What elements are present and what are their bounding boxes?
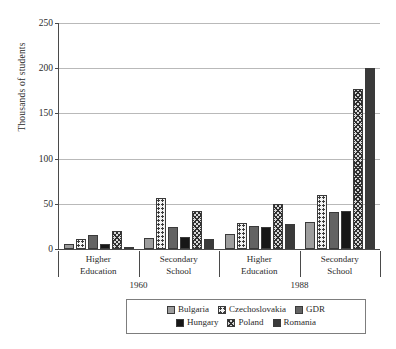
bar-hungary-3 — [341, 211, 351, 249]
bar-bulgaria-3 — [305, 222, 315, 249]
bar-bulgaria-1 — [144, 238, 154, 249]
legend-swatch-czechoslovakia — [218, 306, 226, 314]
y-tick-label: 50 — [44, 199, 54, 209]
y-tick-label: 100 — [39, 154, 53, 164]
x-category-label-3: SecondarySchool — [300, 251, 381, 277]
x-category-label-line: Higher — [58, 254, 139, 266]
bar-czechoslovakia-1 — [156, 198, 166, 249]
legend: BulgariaCzechoslovakiaGDR HungaryPolandR… — [126, 299, 366, 334]
bar-czechoslovakia-0 — [76, 239, 86, 249]
x-era-label-1960: 1960 — [130, 280, 148, 290]
bar-gdr-1 — [168, 227, 178, 249]
bar-bulgaria-0 — [64, 244, 74, 249]
x-era-label-1988: 1988 — [291, 280, 309, 290]
legend-item-hungary[interactable]: Hungary — [176, 316, 219, 329]
x-category-label-line: Education — [58, 266, 139, 278]
bar-romania-2 — [285, 224, 295, 249]
y-tick-label: 200 — [39, 63, 53, 73]
x-category-label-line: School — [300, 266, 381, 278]
legend-row: BulgariaCzechoslovakiaGDR — [131, 303, 361, 316]
legend-item-gdr[interactable]: GDR — [295, 303, 325, 316]
bar-romania-3 — [365, 68, 375, 249]
bar-groups — [59, 23, 380, 249]
bar-group-1 — [139, 23, 219, 249]
x-category-label-line: Education — [219, 266, 300, 278]
y-tick-label: 150 — [39, 108, 53, 118]
x-category-label-2: HigherEducation — [219, 251, 300, 277]
x-separator-0 — [58, 251, 59, 277]
x-separator-1 — [139, 251, 140, 277]
legend-swatch-poland — [227, 319, 235, 327]
x-category-label-line: School — [139, 266, 220, 278]
bar-hungary-1 — [180, 237, 190, 249]
bar-group-3 — [300, 23, 380, 249]
y-tick-label: 250 — [39, 18, 53, 28]
legend-label: Bulgaria — [178, 303, 209, 316]
legend-swatch-hungary — [176, 319, 184, 327]
x-separator-4 — [380, 251, 381, 277]
bar-gdr-0 — [88, 235, 98, 249]
bar-gdr-3 — [329, 212, 339, 249]
plot-area: 050100150200250 — [58, 23, 380, 250]
bar-group-2 — [220, 23, 300, 249]
legend-label: Romania — [284, 316, 317, 329]
legend-label: Poland — [238, 316, 263, 329]
x-separator-2 — [219, 251, 220, 277]
bar-czechoslovakia-3 — [317, 195, 327, 249]
legend-label: GDR — [306, 303, 325, 316]
legend-item-czechoslovakia[interactable]: Czechoslovakia — [218, 303, 286, 316]
x-category-label-line: Secondary — [139, 254, 220, 266]
legend-row: HungaryPolandRomania — [131, 316, 361, 329]
bar-czechoslovakia-2 — [237, 223, 247, 249]
legend-item-bulgaria[interactable]: Bulgaria — [167, 303, 209, 316]
x-axis: HigherEducationSecondarySchoolHigherEduc… — [58, 251, 380, 297]
x-category-label-line: Secondary — [300, 254, 381, 266]
legend-swatch-bulgaria — [167, 306, 175, 314]
bar-poland-0 — [112, 231, 122, 249]
legend-item-poland[interactable]: Poland — [227, 316, 263, 329]
legend-swatch-romania — [273, 319, 281, 327]
x-category-label-line: Higher — [219, 254, 300, 266]
y-tick-label: 0 — [48, 244, 53, 254]
legend-item-romania[interactable]: Romania — [273, 316, 317, 329]
bar-chart: Thousands of students 050100150200250 Hi… — [0, 0, 396, 349]
legend-label: Hungary — [187, 316, 219, 329]
bar-romania-1 — [204, 239, 214, 249]
bar-group-0 — [59, 23, 139, 249]
bar-gdr-2 — [249, 226, 259, 249]
bar-poland-3 — [353, 89, 363, 249]
bar-hungary-0 — [100, 244, 110, 249]
x-category-label-1: SecondarySchool — [139, 251, 220, 277]
y-axis-title: Thousands of students — [17, 17, 27, 157]
legend-label: Czechoslovakia — [229, 303, 286, 316]
bar-hungary-2 — [261, 227, 271, 249]
legend-swatch-gdr — [295, 306, 303, 314]
bar-poland-2 — [273, 204, 283, 249]
bar-poland-1 — [192, 211, 202, 249]
y-tick-mark — [55, 249, 59, 250]
bar-romania-0 — [124, 247, 134, 249]
x-category-label-0: HigherEducation — [58, 251, 139, 277]
x-separator-3 — [300, 251, 301, 277]
bar-bulgaria-2 — [225, 234, 235, 249]
